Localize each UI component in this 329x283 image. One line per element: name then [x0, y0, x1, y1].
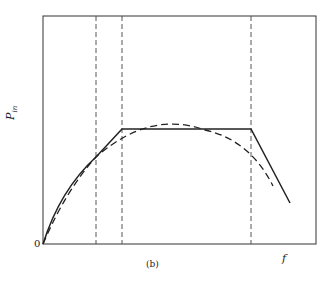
origin-label: 0 — [34, 238, 40, 249]
solid-curve — [43, 129, 290, 244]
chart-plot — [0, 0, 329, 283]
dashed-curve — [43, 124, 273, 244]
chart: Pin 0 f (b) — [0, 0, 329, 283]
plot-frame — [43, 16, 316, 244]
x-axis-label: f — [282, 252, 286, 265]
vertical-markers — [96, 16, 251, 244]
y-axis-label: Pin — [4, 106, 19, 120]
figure-caption: (b) — [146, 259, 159, 269]
